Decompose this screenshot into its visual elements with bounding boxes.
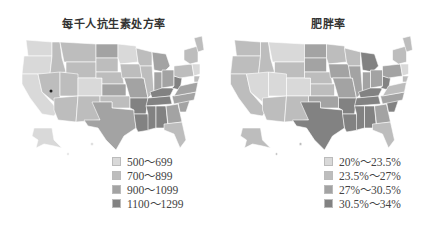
- legend-item: 27%～30.5%: [324, 182, 401, 196]
- legend-swatch: [112, 199, 121, 208]
- legend-label: 30.5%～34%: [339, 195, 401, 211]
- legend-swatch: [324, 185, 333, 194]
- legend-item: 500～699: [112, 154, 184, 168]
- antibiotic-prescription-panel: 每千人抗生素处方率: [0, 0, 212, 226]
- legend-swatch: [112, 157, 121, 166]
- legend-swatch: [324, 199, 333, 208]
- obesity-legend: 20%～23.5% 23.5%～27% 27%～30.5% 30.5%～34%: [324, 154, 401, 210]
- obesity-us-map: [220, 36, 415, 156]
- legend-swatch: [112, 171, 121, 180]
- obesity-map-title: 肥胖率: [222, 15, 425, 31]
- legend-label: 1100～1299: [127, 195, 184, 211]
- legend-item: 20%～23.5%: [324, 154, 401, 168]
- legend-swatch: [324, 171, 333, 180]
- legend-swatch: [112, 185, 121, 194]
- legend-item: 700～899: [112, 168, 184, 182]
- legend-swatch: [324, 157, 333, 166]
- legend-item: 23.5%～27%: [324, 168, 401, 182]
- legend-item: 900～1099: [112, 182, 184, 196]
- antibiotic-us-map: [14, 36, 204, 156]
- antibiotic-legend: 500～699 700～899 900～1099 1100～1299: [112, 154, 184, 210]
- antibiotic-map-title: 每千人抗生素处方率: [8, 15, 220, 31]
- legend-item: 1100～1299: [112, 196, 184, 210]
- legend-item: 30.5%～34%: [324, 196, 401, 210]
- location-marker: [50, 90, 53, 93]
- obesity-rate-panel: 肥胖率: [212, 0, 425, 226]
